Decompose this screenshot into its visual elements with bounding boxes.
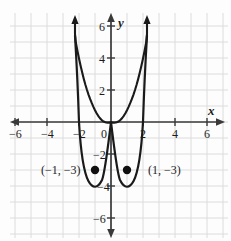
coordinate-plane-svg <box>0 0 231 241</box>
y-tick-label-6: 6 <box>99 21 105 33</box>
y-tick-label-neg6: −6 <box>93 213 106 225</box>
graph-figure: −6 −4 −2 0 2 4 6 6 4 2 −2 −4 −6 y x (−1,… <box>0 0 231 241</box>
x-tick-label-neg2: −2 <box>73 128 86 140</box>
y-tick-label-4: 4 <box>99 53 105 65</box>
x-tick-label-zero: 0 <box>101 128 107 140</box>
x-tick-label-neg4: −4 <box>41 128 54 140</box>
left-point-annotation: (−1, −3) <box>41 164 81 176</box>
y-tick-label-2: 2 <box>99 85 105 97</box>
y-axis-label: y <box>118 16 124 29</box>
y-tick-label-neg2: −2 <box>93 149 106 161</box>
x-tick-label-6: 6 <box>204 128 210 140</box>
x-tick-label-4: 4 <box>172 128 178 140</box>
point-marker-left <box>91 166 99 174</box>
point-marker-right <box>123 166 131 174</box>
right-point-annotation: (1, −3) <box>148 164 181 176</box>
x-axis-label: x <box>208 104 215 117</box>
x-tick-label-2: 2 <box>140 128 146 140</box>
grid-lines <box>10 13 228 238</box>
y-tick-label-neg4: −4 <box>97 181 110 193</box>
x-tick-label-neg6: −6 <box>9 128 22 140</box>
